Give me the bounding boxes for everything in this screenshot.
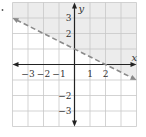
x-tick-label: −2 [37, 69, 50, 79]
bullet-mark [2, 9, 4, 11]
y-tick-label: 3 [66, 13, 72, 23]
x-tick-label: −3 [21, 69, 35, 79]
x-axis-label: x [132, 52, 138, 63]
y-tick-label: −2 [58, 91, 71, 101]
x-tick-label: −1 [52, 69, 65, 79]
y-tick-label: −3 [58, 106, 72, 116]
x-tick-label: 2 [103, 69, 109, 79]
y-tick-label: 2 [66, 29, 72, 39]
y-axis-label: y [78, 3, 85, 14]
coordinate-graph: −3−2−11232−2−3 x y [0, 0, 146, 137]
x-tick-label: 1 [87, 69, 93, 79]
